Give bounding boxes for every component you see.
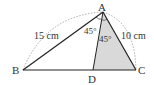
label-d: D: [88, 73, 96, 85]
label-a: A: [98, 1, 106, 13]
angle-arc-bad: [96, 17, 101, 19]
length-ac: 10 cm: [121, 30, 146, 41]
segment-ab: [23, 12, 103, 70]
triangle-diagram: A B C D 15 cm 10 cm 45° 45°: [0, 0, 154, 85]
angle-bad: 45°: [84, 26, 97, 36]
length-ab: 15 cm: [34, 30, 59, 41]
angle-dac: 45°: [99, 34, 112, 44]
label-b: B: [12, 64, 19, 76]
label-c: C: [138, 64, 145, 76]
